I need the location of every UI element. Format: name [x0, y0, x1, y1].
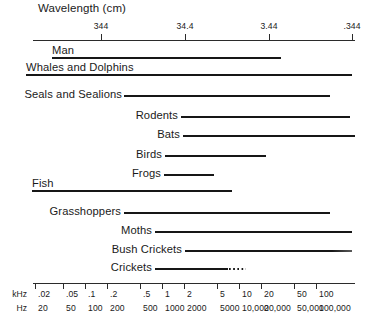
bottom-axis-tick — [239, 284, 240, 289]
row-crickets-bar-dashed-extension — [229, 268, 246, 270]
top-axis-tick — [269, 34, 270, 41]
khz-unit-label: kHz — [0, 289, 27, 299]
top-axis-tick-label: 3.44 — [260, 21, 277, 31]
hz-tick-label: 20,000 — [264, 303, 291, 313]
row-man-bar — [52, 57, 281, 59]
hz-tick-label: 100,000 — [319, 303, 351, 313]
row-fish-bar — [32, 190, 232, 192]
row-man-label: Man — [52, 44, 74, 56]
khz-tick-label: .02 — [38, 289, 50, 299]
hz-tick-label: 50 — [66, 303, 76, 313]
row-moths-label: Moths — [121, 224, 152, 236]
hz-tick-label: 2000 — [187, 303, 207, 313]
row-bats-label: Bats — [157, 128, 180, 140]
row-frogs-bar — [164, 174, 214, 176]
khz-tick-label: 2 — [187, 289, 192, 299]
top-axis-tick-label: .344 — [343, 21, 360, 31]
row-whales-and-dolphins-label: Whales and Dolphins — [26, 61, 134, 73]
row-bush-crickets-bar — [185, 250, 352, 252]
khz-tick-label: 5 — [220, 289, 225, 299]
row-bush-crickets-label: Bush Crickets — [112, 243, 182, 255]
top-axis-tick-label: 34.4 — [176, 21, 193, 31]
khz-tick-label: .1 — [88, 289, 95, 299]
hz-tick-label: 20 — [38, 303, 48, 313]
wavelength-frequency-hearing-range-chart: Wavelength (cm) 34434.43.44.344 ManWhale… — [0, 0, 373, 324]
hz-tick-label: 100 — [88, 303, 103, 313]
bottom-axis-tick — [107, 284, 108, 289]
bottom-axis-tick — [316, 284, 317, 289]
hz-tick-label: 1000 — [165, 303, 185, 313]
row-grasshoppers-label: Grasshoppers — [50, 205, 121, 217]
hz-tick-label: 200 — [110, 303, 125, 313]
top-axis-tick-label: 344 — [94, 21, 109, 31]
khz-tick-label: 50 — [297, 289, 307, 299]
khz-tick-label: .2 — [110, 289, 117, 299]
khz-tick-label: .5 — [143, 289, 150, 299]
khz-tick-label: 100 — [319, 289, 334, 299]
row-moths-bar — [155, 231, 352, 233]
bottom-axis-tick — [294, 284, 295, 289]
bottom-axis-tick — [85, 284, 86, 289]
row-crickets-label: Crickets — [111, 261, 152, 273]
row-seals-and-sealions-bar — [124, 95, 330, 97]
chart-title: Wavelength (cm) — [38, 2, 126, 14]
row-seals-and-sealions-label: Seals and Sealions — [24, 88, 122, 100]
bottom-axis-line — [33, 283, 355, 284]
row-fish-label: Fish — [32, 177, 54, 189]
row-whales-and-dolphins-bar — [26, 74, 352, 76]
row-bats-bar — [183, 135, 355, 137]
top-axis-tick — [101, 34, 102, 41]
row-rodents-label: Rodents — [136, 109, 178, 121]
row-birds-label: Birds — [136, 148, 162, 160]
khz-tick-label: 1 — [165, 289, 170, 299]
bottom-axis-tick — [140, 284, 141, 289]
top-axis-line — [33, 40, 355, 41]
hz-unit-label: Hz — [0, 303, 27, 313]
bottom-axis-tick — [217, 284, 218, 289]
row-rodents-bar — [181, 116, 350, 118]
top-axis-tick — [185, 34, 186, 41]
khz-tick-label: 20 — [264, 289, 274, 299]
hz-tick-label: 500 — [143, 303, 158, 313]
khz-tick-label: .05 — [66, 289, 78, 299]
row-grasshoppers-bar — [124, 212, 330, 214]
bottom-axis-tick — [261, 284, 262, 289]
top-axis-tick — [352, 34, 353, 41]
row-crickets-bar — [155, 268, 228, 270]
bottom-axis-tick — [184, 284, 185, 289]
hz-tick-label: 5000 — [220, 303, 240, 313]
bottom-axis-tick — [35, 284, 36, 289]
khz-tick-label: 10 — [242, 289, 252, 299]
bottom-axis-tick — [162, 284, 163, 289]
row-frogs-label: Frogs — [132, 167, 161, 179]
row-birds-bar — [165, 155, 266, 157]
bottom-axis-tick — [63, 284, 64, 289]
